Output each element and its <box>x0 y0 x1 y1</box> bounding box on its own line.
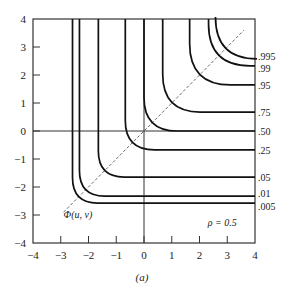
y-tick-label: −2 <box>14 181 26 193</box>
rho-label: ρ = 0.5 <box>207 217 237 228</box>
x-tick-label: 3 <box>225 249 231 261</box>
contour-label: .25 <box>258 145 271 156</box>
x-tick-label: 4 <box>252 249 258 261</box>
contour-label: .995 <box>258 51 276 62</box>
x-tick-label: −3 <box>55 249 67 261</box>
bivariate-normal-cdf-contour-chart: −4−3−2−10123443210−1−2−3−4 .005.01.05.25… <box>0 0 290 290</box>
phi-uv-label: Φ(u, v) <box>64 209 93 221</box>
x-tick-label: −4 <box>27 249 39 261</box>
contour-label: .75 <box>258 107 271 118</box>
contour-label: .01 <box>258 188 271 199</box>
contour-label: .005 <box>258 201 276 212</box>
y-tick-label: 3 <box>21 41 27 53</box>
contour-label: .95 <box>258 80 271 91</box>
y-tick-label: −1 <box>14 153 26 165</box>
x-tick-label: 1 <box>169 249 175 261</box>
x-tick-label: 0 <box>141 249 147 261</box>
y-tick-label: −3 <box>14 209 26 221</box>
y-tick-label: 4 <box>21 13 27 25</box>
figure-caption: (a) <box>136 271 149 284</box>
x-tick-label: −2 <box>83 249 95 261</box>
x-tick-label: 2 <box>197 249 203 261</box>
x-tick-label: −1 <box>110 249 122 261</box>
y-tick-label: 0 <box>21 125 27 137</box>
y-tick-label: 1 <box>21 97 27 109</box>
y-tick-label: 2 <box>21 69 27 81</box>
y-tick-label: −4 <box>14 237 26 249</box>
contour-label: .50 <box>258 126 271 137</box>
contour-label: .05 <box>258 172 271 183</box>
contour-label: .99 <box>258 63 271 74</box>
diagonal-dashed-line <box>64 30 244 212</box>
